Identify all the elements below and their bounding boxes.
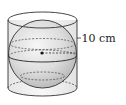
sphere — [9, 20, 77, 88]
radius-label: 10 cm — [82, 32, 117, 45]
sphere-in-cylinder-diagram: 10 cm — [0, 0, 126, 105]
